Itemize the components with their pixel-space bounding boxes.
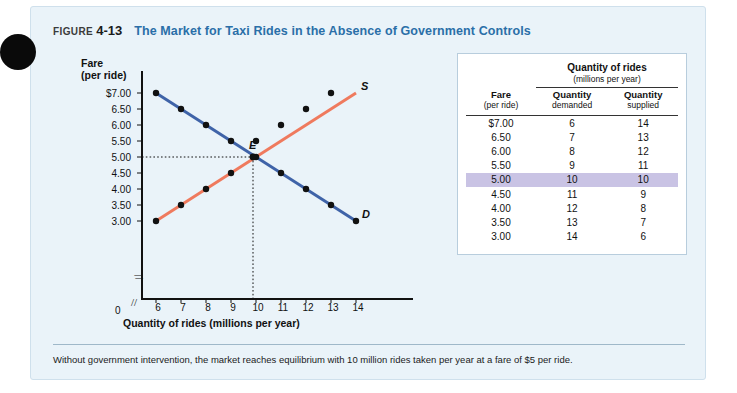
cell-fare: 6.50 — [466, 130, 536, 144]
cell-fare: $7.00 — [466, 116, 536, 131]
demand-point — [278, 170, 284, 176]
equilibrium-point — [250, 154, 257, 161]
demand-point — [178, 106, 184, 112]
cell-supplied: 8 — [608, 201, 678, 215]
demand-point — [328, 202, 334, 208]
table-row: 6.50 7 13 — [466, 130, 678, 144]
chart: Fare (per ride) $7.00 6.50 6.00 5.50 5.0… — [53, 53, 443, 338]
demand-curve-label: D — [362, 208, 370, 220]
figure-label: FIGURE — [53, 26, 93, 37]
cell-demanded: 12 — [536, 201, 608, 215]
figure-label-group: FIGURE4-13 — [53, 21, 122, 39]
cell-supplied: 7 — [608, 215, 678, 229]
cell-supplied: 10 — [608, 173, 678, 187]
cell-demanded: 9 — [536, 159, 608, 173]
figure-number: 4-13 — [96, 23, 122, 38]
cell-fare: 3.00 — [466, 230, 536, 244]
table-row: 3.00 14 6 — [466, 230, 678, 244]
caption-divider — [53, 344, 685, 345]
cell-supplied: 9 — [608, 187, 678, 201]
table-group-header: Quantity of rides — [536, 60, 678, 74]
cell-demanded: 11 — [536, 187, 608, 201]
plot-canvas — [53, 53, 443, 338]
supply-point — [328, 90, 334, 96]
cell-supplied: 11 — [608, 159, 678, 173]
cell-demanded: 6 — [536, 116, 608, 131]
cell-demanded: 8 — [536, 144, 608, 158]
table-row: 6.00 8 12 — [466, 144, 678, 158]
table-col-demanded-title: Quantity — [553, 89, 592, 100]
table-group-subheader: (millions per year) — [536, 74, 678, 88]
table-col-fare-title: Fare — [491, 89, 511, 100]
demand-point — [303, 186, 309, 192]
cell-fare: 3.50 — [466, 215, 536, 229]
supply-point — [303, 106, 309, 112]
demand-point — [153, 90, 159, 96]
supply-curve-label: S — [361, 80, 368, 92]
table-row-equilibrium: 5.00 10 10 — [466, 173, 678, 187]
cell-fare: 5.00 — [466, 173, 536, 187]
table-col-supplied-sub: supplied — [610, 100, 676, 111]
table-col-fare: Fare (per ride) — [466, 87, 536, 116]
table-col-fare-sub: (per ride) — [468, 100, 534, 111]
cell-fare: 4.50 — [466, 187, 536, 201]
demand-point — [203, 122, 209, 128]
supply-point — [278, 122, 284, 128]
data-table-container: Quantity of rides (millions per year) Fa… — [457, 53, 687, 255]
demand-point — [228, 138, 234, 144]
cell-fare: 4.00 — [466, 201, 536, 215]
figure-card: FIGURE4-13 The Market for Taxi Rides in … — [30, 6, 706, 380]
data-table: Quantity of rides (millions per year) Fa… — [466, 60, 678, 244]
table-row: 4.50 11 9 — [466, 187, 678, 201]
table-row: $7.00 6 14 — [466, 116, 678, 131]
cell-supplied: 12 — [608, 144, 678, 158]
table-row: 5.50 9 11 — [466, 159, 678, 173]
figure-header: FIGURE4-13 The Market for Taxi Rides in … — [53, 21, 531, 39]
table-col-supplied-title: Quantity — [624, 89, 663, 100]
cell-fare: 6.00 — [466, 144, 536, 158]
x-axis-title: Quantity of rides (millions per year) — [123, 317, 300, 329]
supply-point — [203, 186, 209, 192]
supply-point — [178, 202, 184, 208]
cell-supplied: 14 — [608, 116, 678, 131]
table-col-demanded: Quantity demanded — [536, 87, 608, 116]
table-row: 4.00 12 8 — [466, 201, 678, 215]
table-row: 3.50 13 7 — [466, 215, 678, 229]
table-col-demanded-sub: demanded — [538, 100, 606, 111]
cell-demanded: 10 — [536, 173, 608, 187]
cell-supplied: 6 — [608, 230, 678, 244]
cell-fare: 5.50 — [466, 159, 536, 173]
cell-demanded: 13 — [536, 215, 608, 229]
page-marker-dot — [0, 34, 36, 70]
supply-point — [153, 218, 159, 224]
cell-supplied: 13 — [608, 130, 678, 144]
figure-title: The Market for Taxi Rides in the Absence… — [134, 24, 531, 38]
cell-demanded: 14 — [536, 230, 608, 244]
figure-caption: Without government intervention, the mar… — [53, 353, 687, 366]
equilibrium-label: E — [249, 139, 256, 151]
supply-point — [228, 170, 234, 176]
demand-point — [353, 218, 359, 224]
table-col-supplied: Quantity supplied — [608, 87, 678, 116]
cell-demanded: 7 — [536, 130, 608, 144]
